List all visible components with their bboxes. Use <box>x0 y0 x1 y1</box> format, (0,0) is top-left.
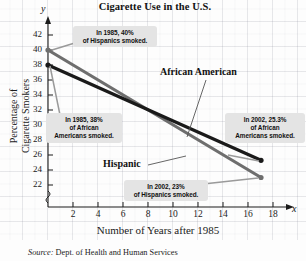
chart-figure: Cigarette Use in the U.S. y x <box>0 0 306 261</box>
callout-line: of African <box>228 124 302 132</box>
x-tick-marks <box>73 202 273 207</box>
y-axis-title-line1: Percentage of <box>8 64 20 168</box>
y-axis-title: Percentage of Cigarette Smokers <box>8 64 32 168</box>
x-tick-label: 16 <box>239 209 257 219</box>
series-label-african-american: African American <box>160 66 237 77</box>
y-tick-label: 42 <box>26 29 42 39</box>
callout-line: of African <box>49 124 119 132</box>
series-label-hispanic: Hispanic <box>103 158 141 169</box>
x-tick-label: 4 <box>89 209 107 219</box>
leader-label-hispanic <box>148 156 186 165</box>
y-axis-title-line2: Cigarette Smokers <box>20 64 32 168</box>
y-tick-label: 22 <box>26 179 42 189</box>
x-tick-label: 14 <box>214 209 232 219</box>
leader-aa-1985 <box>50 66 60 115</box>
callout-hispanic-1985: In 1985, 40% of Hispanics smoked. <box>73 26 157 47</box>
x-tick-label: 2 <box>64 209 82 219</box>
y-tick-label: 40 <box>26 44 42 54</box>
x-tick-label: 8 <box>139 209 157 219</box>
x-axis-arrow <box>286 204 294 210</box>
callout-line: In 1985, 38% <box>49 116 119 124</box>
series-point-african-american-end <box>258 158 263 163</box>
callout-african-american-2002: In 2002, 25.3% of African Americans smok… <box>225 113 305 143</box>
callout-line: Americans smoked. <box>228 132 302 140</box>
callout-african-american-1985: In 1985, 38% of African Americans smoked… <box>46 113 122 143</box>
x-tick-label: 10 <box>164 209 182 219</box>
callout-line: of Hispanics smoked. <box>76 37 154 45</box>
y-axis-arrow <box>45 16 51 24</box>
source-text: Dept. of Health and Human Services <box>56 248 178 257</box>
x-tick-label: 18 <box>264 209 282 219</box>
callout-hispanic-2002: In 2002, 23% of Hispanics smoked. <box>124 180 208 201</box>
series-point-hispanic-start <box>45 47 50 52</box>
leader-label-african-american <box>187 80 206 137</box>
callout-line: Americans smoked. <box>49 132 119 140</box>
x-tick-label: 6 <box>114 209 132 219</box>
source-note: Source: Dept. of Health and Human Servic… <box>28 248 178 257</box>
x-axis-title: Number of Years after 1985 <box>48 224 268 236</box>
callout-line: In 2002, 23% <box>127 183 205 191</box>
callout-line: of Hispanics smoked. <box>127 191 205 199</box>
source-key: Source: <box>28 248 54 257</box>
callout-line: In 1985, 40% <box>76 29 154 37</box>
callout-line: In 2002, 25.3% <box>228 116 302 124</box>
x-tick-label: 12 <box>189 209 207 219</box>
y-tick-marks <box>48 35 53 185</box>
series-point-hispanic-end <box>258 175 263 180</box>
